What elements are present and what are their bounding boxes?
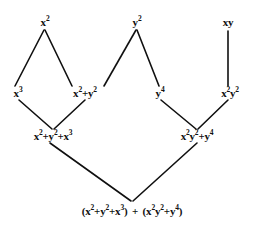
node-y4: y4 — [156, 88, 165, 99]
node-x2: x2 — [41, 17, 50, 28]
node-xy: xy — [223, 17, 234, 28]
node-y4-text: y4 — [156, 87, 165, 99]
node-x3-text: x3 — [14, 87, 23, 99]
node-x2-plus-y2-plus-x3-text: x2+y2+x3 — [34, 130, 73, 142]
edge-n-y4-to-n-x2y2py4 — [161, 100, 196, 129]
node-x2y2: x2y2 — [221, 88, 239, 99]
node-y2-text: y2 — [133, 16, 142, 28]
node-x3: x3 — [14, 88, 23, 99]
edge-n-x2y2-to-n-x2y2py4 — [198, 100, 228, 129]
node-x2-plus-y2: x2+y2 — [73, 88, 97, 99]
edge-n-x2-to-n-x2py2 — [45, 30, 72, 86]
node-sum-text: (x2+y2+x3) + (x2y2+y4) — [82, 205, 182, 217]
node-sum: (x2+y2+x3) + (x2y2+y4) — [82, 206, 182, 217]
node-x2y2-plus-y4-text: x2y2+y4 — [181, 130, 214, 142]
node-x2y2-plus-y4: x2y2+y4 — [181, 131, 214, 142]
edge-layer — [0, 0, 265, 231]
node-y2: y2 — [133, 17, 142, 28]
edge-n-x2y2py4-to-n-sum — [133, 143, 197, 201]
expression-tree-diagram: x2 y2 xy x3 x2+y2 y4 x2y2 x2+y2+x3 x2y2+… — [0, 0, 265, 231]
edge-n-y2-to-n-y4 — [137, 30, 159, 86]
edge-n-x3-to-n-x2py2px3 — [19, 100, 52, 129]
node-xy-text: xy — [223, 16, 234, 28]
node-x2-text: x2 — [41, 16, 50, 28]
node-x2-plus-y2-plus-x3: x2+y2+x3 — [34, 131, 73, 142]
edge-n-x2py2-to-n-x2py2px3 — [54, 100, 85, 129]
edge-n-x2-to-n-x3 — [15, 30, 44, 86]
edge-n-x2py2px3-to-n-sum — [50, 143, 131, 201]
node-x2-plus-y2-text: x2+y2 — [73, 87, 97, 99]
edge-n-y2-to-n-x2py2 — [104, 30, 136, 86]
node-x2y2-text: x2y2 — [221, 87, 239, 99]
